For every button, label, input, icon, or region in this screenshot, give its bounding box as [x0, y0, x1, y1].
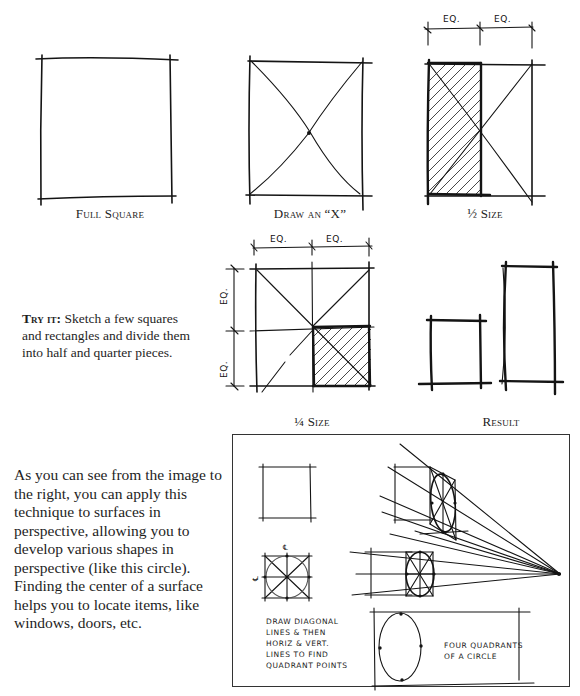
note-left-line-2: LINES & THEN: [266, 628, 326, 637]
centerline-symbol-left: ℄: [251, 576, 260, 582]
note-left-line-4: LINES TO FIND: [266, 650, 328, 659]
perspective-figure-sketch: ℄ ℄: [0, 0, 580, 696]
note-right-line-1: FOUR QUADRANTS: [444, 641, 523, 650]
note-left-line-3: HORIZ & VERT.: [266, 639, 329, 648]
note-left-line-5: QUADRANT POINTS: [266, 661, 348, 670]
centerline-symbol-top: ℄: [282, 543, 288, 552]
note-right-line-2: OF A CIRCLE: [444, 652, 497, 661]
note-left-line-1: DRAW DIAGONAL: [266, 617, 339, 626]
